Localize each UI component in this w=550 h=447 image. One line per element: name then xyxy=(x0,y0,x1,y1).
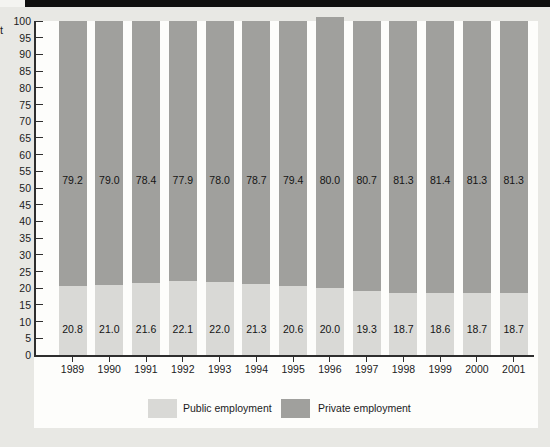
x-tick-mark-2000 xyxy=(476,357,477,362)
value-label-public-2000: 18.7 xyxy=(457,322,497,336)
value-label-public-1993: 22.0 xyxy=(200,322,240,336)
y-tick-label: 40 xyxy=(0,215,31,227)
value-label-private-1990: 79.0 xyxy=(89,173,129,187)
x-tick-mark-1990 xyxy=(109,357,110,362)
y-tick-mark xyxy=(36,37,43,38)
y-tick-label: 100 xyxy=(0,15,31,27)
y-tick-label: 75 xyxy=(0,99,31,111)
year-label-1994: 1994 xyxy=(236,363,276,376)
year-label-1992: 1992 xyxy=(163,363,203,376)
y-tick-label: 0 xyxy=(0,349,31,361)
x-tick-mark-1999 xyxy=(440,357,441,362)
value-label-private-1992: 77.9 xyxy=(163,173,203,187)
value-label-public-1998: 18.7 xyxy=(383,322,423,336)
bar-segment-public-1990 xyxy=(95,285,123,355)
value-label-public-1995: 20.6 xyxy=(273,322,313,336)
y-tick-mark xyxy=(36,204,43,205)
y-tick-label: 90 xyxy=(0,48,31,60)
x-tick-mark-1996 xyxy=(329,357,330,362)
year-label-2000: 2000 xyxy=(457,363,497,376)
bar-segment-public-1994 xyxy=(242,284,270,355)
y-tick-mark xyxy=(36,321,43,322)
y-tick-mark xyxy=(36,21,43,22)
y-tick-mark xyxy=(36,271,43,272)
x-tick-mark-1993 xyxy=(219,357,220,362)
y-tick-mark xyxy=(36,304,43,305)
y-tick-label: 50 xyxy=(0,182,31,194)
legend-label-public: Public employment xyxy=(183,402,272,415)
x-axis-line xyxy=(34,355,534,357)
value-label-private-2001: 81.3 xyxy=(494,173,534,187)
value-label-public-1992: 22.1 xyxy=(163,322,203,336)
value-label-private-1996: 80.0 xyxy=(310,173,350,187)
bar-segment-public-1993 xyxy=(206,282,234,355)
y-tick-mark xyxy=(36,104,43,105)
y-tick-label: 10 xyxy=(0,316,31,328)
year-label-1991: 1991 xyxy=(126,363,166,376)
plot-area: 0510152025303540455055606570758085909510… xyxy=(0,0,550,447)
y-tick-mark xyxy=(36,71,43,72)
x-tick-mark-2001 xyxy=(513,357,514,362)
value-label-private-2000: 81.3 xyxy=(457,173,497,187)
bar-segment-private-2000 xyxy=(463,21,491,293)
y-tick-label: 85 xyxy=(0,65,31,77)
bar-segment-private-1996 xyxy=(316,17,344,288)
y-tick-label: 65 xyxy=(0,132,31,144)
bar-segment-private-1995 xyxy=(279,21,307,286)
y-tick-mark xyxy=(36,87,43,88)
x-tick-mark-1994 xyxy=(256,357,257,362)
y-tick-mark xyxy=(36,288,43,289)
y-tick-label: 5 xyxy=(0,332,31,344)
bar-segment-private-1991 xyxy=(132,21,160,283)
year-label-1995: 1995 xyxy=(273,363,313,376)
y-tick-mark xyxy=(36,254,43,255)
legend-swatch-private xyxy=(281,399,310,418)
value-label-private-1989: 79.2 xyxy=(53,173,93,187)
x-tick-mark-1997 xyxy=(366,357,367,362)
y-tick-label: 55 xyxy=(0,165,31,177)
value-label-public-1994: 21.3 xyxy=(236,322,276,336)
y-tick-label: 95 xyxy=(0,32,31,44)
year-label-1989: 1989 xyxy=(53,363,93,376)
x-tick-mark-1998 xyxy=(403,357,404,362)
x-tick-mark-1992 xyxy=(182,357,183,362)
year-label-2001: 2001 xyxy=(494,363,534,376)
value-label-private-1995: 79.4 xyxy=(273,173,313,187)
bar-segment-private-1989 xyxy=(59,21,87,286)
y-tick-label: 60 xyxy=(0,149,31,161)
year-label-1993: 1993 xyxy=(200,363,240,376)
value-label-private-1994: 78.7 xyxy=(236,173,276,187)
y-tick-mark xyxy=(36,221,43,222)
value-label-public-1999: 18.6 xyxy=(420,322,460,336)
year-label-1999: 1999 xyxy=(420,363,460,376)
year-label-1998: 1998 xyxy=(383,363,423,376)
value-label-private-1997: 80.7 xyxy=(347,173,387,187)
y-tick-label: 35 xyxy=(0,232,31,244)
y-tick-label: 30 xyxy=(0,249,31,261)
y-tick-mark xyxy=(36,137,43,138)
y-tick-label: 80 xyxy=(0,82,31,94)
value-label-private-1999: 81.4 xyxy=(420,173,460,187)
y-tick-mark xyxy=(36,338,43,339)
bar-segment-private-1990 xyxy=(95,21,123,285)
legend-swatch-public xyxy=(148,399,177,418)
value-label-public-2001: 18.7 xyxy=(494,322,534,336)
bar-segment-public-1992 xyxy=(169,281,197,355)
y-tick-mark xyxy=(36,54,43,55)
value-label-public-1990: 21.0 xyxy=(89,322,129,336)
y-tick-label: 25 xyxy=(0,266,31,278)
bar-segment-public-1989 xyxy=(59,286,87,355)
value-label-private-1991: 78.4 xyxy=(126,173,166,187)
bar-segment-private-1993 xyxy=(206,21,234,282)
value-label-public-1996: 20.0 xyxy=(310,322,350,336)
bar-segment-private-1992 xyxy=(169,21,197,281)
x-tick-mark-1989 xyxy=(72,357,73,362)
year-label-1996: 1996 xyxy=(310,363,350,376)
bar-segment-private-1999 xyxy=(426,21,454,293)
bar-segment-private-2001 xyxy=(500,21,528,293)
x-tick-mark-1991 xyxy=(146,357,147,362)
bar-segment-private-1997 xyxy=(353,21,381,291)
bar-segment-public-1991 xyxy=(132,283,160,355)
legend-label-private: Private employment xyxy=(318,402,411,415)
y-tick-mark xyxy=(36,154,43,155)
